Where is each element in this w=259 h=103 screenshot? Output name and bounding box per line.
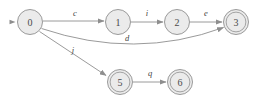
state-node-5[interactable]: 5 [108,70,133,95]
edge-label-5-to-6: q [148,68,153,78]
edge-0-to-3 [42,28,224,45]
state-node-3[interactable]: 3 [224,10,249,35]
state-label-3: 3 [234,17,239,28]
state-label-5: 5 [118,77,123,88]
edge-label-1-to-2: i [146,8,149,18]
state-node-1[interactable]: 1 [106,10,131,35]
edges-layer [40,21,224,82]
edge-label-0-to-3: d [125,33,130,43]
state-label-1: 1 [116,17,121,28]
state-node-0[interactable]: 0 [18,10,43,35]
state-machine-graph: 012356 ciedjq [0,0,259,103]
edge-label-2-to-3: e [204,8,208,18]
state-label-0: 0 [28,17,33,28]
state-node-6[interactable]: 6 [168,70,193,95]
start-marker [10,20,16,25]
automaton-diagram-canvas: 012356 ciedjq [0,0,259,103]
state-label-6: 6 [178,77,183,88]
edge-label-0-to-5: j [71,45,75,55]
state-node-2[interactable]: 2 [165,10,190,35]
edge-label-0-to-1: c [73,8,77,18]
state-label-2: 2 [175,17,180,28]
